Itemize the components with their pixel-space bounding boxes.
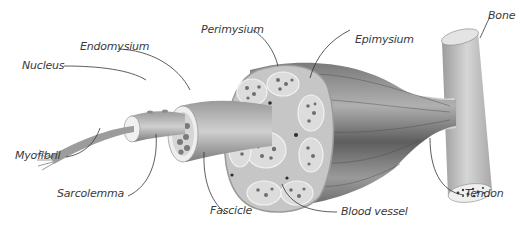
fascicle-cross-section	[299, 138, 323, 172]
fascicle-cross-section	[237, 79, 267, 105]
label-epimysium: Epimysium	[355, 33, 414, 46]
nucleus	[147, 110, 153, 113]
fascicle-cross-section	[298, 95, 324, 131]
label-nucleus: Nucleus	[22, 59, 64, 72]
fascicle-cross-section	[267, 72, 299, 96]
label-perimysium: Perimysium	[201, 23, 264, 36]
fascicle-cross-section	[247, 181, 281, 205]
label-tendon: Tendon	[465, 187, 504, 200]
label-blood-vessel: Blood vessel	[341, 205, 408, 218]
fascicle-cross-section	[281, 181, 313, 205]
label-endomysium: Endomysium	[80, 40, 149, 53]
label-bone: Bone	[488, 9, 515, 22]
label-myofibril: Myofibril	[15, 149, 60, 162]
label-sarcolemma: Sarcolemma	[57, 187, 124, 200]
label-fascicle: Fascicle	[210, 204, 252, 217]
myofibril	[36, 126, 134, 170]
